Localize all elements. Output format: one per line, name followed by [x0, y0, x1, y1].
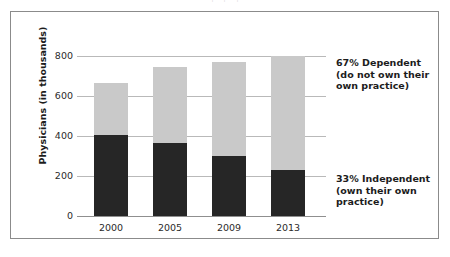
x-tick-label-2013: 2013 — [258, 222, 318, 233]
x-tick-label-2009: 2009 — [199, 222, 259, 233]
figure-frame: Physicians (in thousands) 800 600 400 20… — [10, 11, 439, 239]
y-tick-label: 800 — [33, 51, 73, 61]
y-tick-label: 200 — [33, 171, 73, 181]
annotation-independent: 33% Independent (own their own practice) — [336, 173, 448, 208]
bar-segment-independent[interactable] — [153, 143, 187, 216]
annotation-dependent: 67% Dependent (do not own their own prac… — [336, 57, 448, 92]
x-tick-label-2005: 2005 — [140, 222, 200, 233]
plot-area: 2000 2005 2009 2013 — [77, 56, 326, 216]
y-axis-tick-labels: 800 600 400 200 0 — [29, 56, 73, 216]
y-tick-label: 600 — [33, 91, 73, 101]
bar-segment-independent[interactable] — [271, 170, 305, 216]
y-tick-label: 400 — [33, 131, 73, 141]
x-tick-label-2000: 2000 — [81, 222, 141, 233]
bar-segment-independent[interactable] — [94, 135, 128, 216]
bar-segment-dependent[interactable] — [153, 67, 187, 143]
y-tick-label: 0 — [33, 211, 73, 221]
cropped-caption-above-figure: ｜ ｜ ｜ — [0, 0, 450, 3]
chart-page: ｜ ｜ ｜ Physicians (in thousands) 800 600 … — [0, 0, 450, 257]
bar-segment-independent[interactable] — [212, 156, 246, 216]
bar-segment-dependent[interactable] — [94, 83, 128, 135]
x-axis-baseline — [77, 216, 326, 217]
bar-segment-dependent[interactable] — [212, 62, 246, 156]
bar-segment-dependent[interactable] — [271, 56, 305, 170]
